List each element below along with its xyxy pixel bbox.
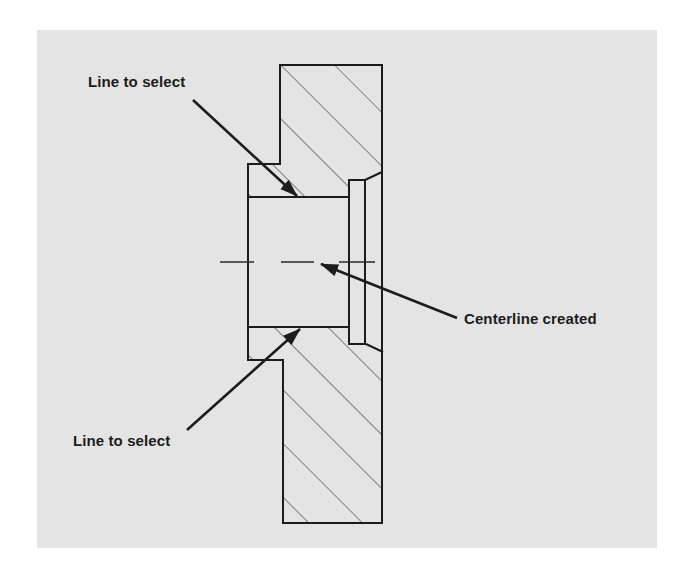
lower-line-to-select-label: Line to select <box>73 432 170 449</box>
upper-line-to-select-label: Line to select <box>88 73 185 90</box>
centerline-created-label: Centerline created <box>464 310 597 327</box>
centerline-leader-arrow <box>321 264 457 318</box>
upper-section <box>248 65 382 197</box>
